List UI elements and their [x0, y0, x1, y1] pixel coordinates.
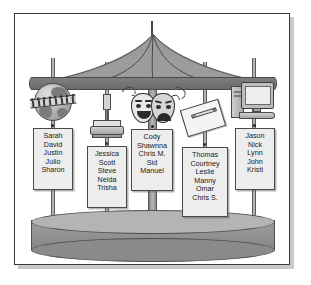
illustration-canvas: Sarah David Justin Julio Sharon Jessica … — [0, 0, 311, 285]
person-figure — [55, 98, 58, 104]
name-card[interactable]: Jason Nick Lynn John Kristi — [235, 128, 275, 190]
mask-mouth-frowning — [157, 113, 171, 121]
person-figure — [37, 100, 40, 106]
mask-brow — [155, 100, 162, 104]
person-figure — [32, 101, 35, 107]
paper-pencil-icon — [183, 104, 229, 138]
card-hook — [105, 142, 108, 145]
globe-icon — [34, 83, 72, 121]
mask-eye — [136, 104, 141, 108]
student-name: Kristi — [236, 166, 274, 175]
name-card[interactable]: Thomas Courtney Leslie Manny Omar Chris … — [182, 147, 228, 217]
carousel-base-bottom — [31, 238, 275, 262]
name-card[interactable]: Sarah David Justin Julio Sharon — [33, 128, 73, 190]
monitor-screen — [245, 86, 271, 105]
card-hook — [203, 143, 206, 146]
picture-frame: Sarah David Justin Julio Sharon Jessica … — [14, 13, 290, 265]
globe-landmass — [57, 108, 68, 118]
mask-brow — [135, 100, 142, 102]
mask-eye — [166, 105, 171, 109]
name-card[interactable]: Jessica Scott Steve Nelda Trisha — [87, 146, 127, 208]
person-figure — [66, 97, 69, 103]
card-hook — [253, 124, 256, 127]
paper-sheet — [180, 99, 226, 137]
name-card[interactable]: Cody Shawnna Chris M. Sid Manuel — [131, 129, 173, 191]
mask-eye — [156, 105, 161, 109]
student-name: Trisha — [88, 184, 126, 193]
microscope-icon — [90, 94, 124, 138]
card-hook — [151, 125, 154, 128]
tragedy-mask — [151, 93, 175, 123]
student-name: Sharon — [34, 166, 72, 175]
mask-brow — [165, 100, 172, 104]
card-hook — [51, 124, 54, 127]
person-figure — [60, 98, 63, 104]
theater-masks-icon — [121, 86, 185, 126]
microscope-eyepiece — [103, 94, 111, 110]
carousel-illustration: Sarah David Justin Julio Sharon Jessica … — [15, 14, 291, 266]
person-figure — [49, 99, 52, 105]
student-name: Chris S. — [183, 194, 227, 203]
person-figure — [43, 99, 46, 105]
mask-mouth-smiling — [137, 111, 151, 119]
microscope-foot — [92, 134, 122, 138]
person-figure — [72, 96, 75, 102]
computer-icon — [231, 82, 277, 120]
student-name: Manuel — [132, 167, 172, 176]
computer-monitor — [241, 82, 274, 109]
carousel-base-top — [31, 210, 275, 234]
computer-keyboard — [239, 112, 275, 119]
